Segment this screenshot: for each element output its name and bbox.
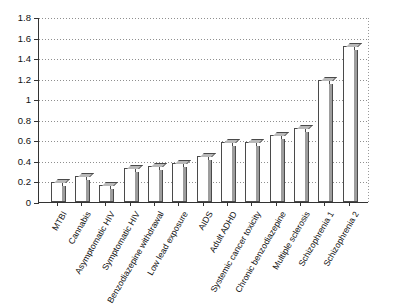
- x-axis-tick: [130, 202, 131, 206]
- y-axis-tick: [34, 203, 39, 204]
- y-axis-tick: [34, 100, 39, 101]
- bar: [172, 163, 184, 202]
- bar-side-face: [232, 146, 236, 202]
- x-axis-tick: [57, 202, 58, 206]
- bar-top-face: [200, 153, 216, 157]
- bar: [124, 168, 136, 202]
- bar-side-face: [354, 50, 358, 202]
- x-axis-category-label: Cannabis: [67, 210, 93, 246]
- y-axis-tick-label: 1.2: [18, 75, 31, 85]
- bar-top-face: [127, 165, 143, 169]
- y-axis-tick: [34, 59, 39, 60]
- bar-top-face: [175, 160, 191, 164]
- y-axis-tick-label: 0.8: [18, 116, 31, 126]
- bar: [148, 166, 160, 202]
- bar: [221, 142, 233, 202]
- x-axis-category-label: AIDS: [197, 210, 214, 232]
- bar-side-face: [110, 189, 114, 202]
- plot-area: 00.20.40.60.811.21.41.61.8: [38, 18, 368, 203]
- bar-side-face: [159, 170, 163, 202]
- y-axis-tick: [34, 80, 39, 81]
- bar-top-face: [151, 163, 167, 167]
- bar-side-face: [208, 160, 212, 202]
- x-axis-tick: [276, 202, 277, 206]
- x-axis-tick: [324, 202, 325, 206]
- bar-side-face: [62, 186, 66, 202]
- bar-top-face: [224, 139, 240, 143]
- x-axis-tick: [349, 202, 350, 206]
- bar: [75, 176, 87, 202]
- y-axis-tick-label: 0.4: [18, 157, 31, 167]
- x-axis-tick: [178, 202, 179, 206]
- bar: [343, 46, 355, 202]
- bar-top-face: [297, 125, 313, 129]
- y-axis-tick: [34, 39, 39, 40]
- bar-top-face: [346, 43, 362, 47]
- bar: [270, 135, 282, 202]
- bar: [245, 142, 257, 202]
- y-axis-tick: [34, 121, 39, 122]
- y-axis-tick-label: 0.6: [18, 137, 31, 147]
- y-axis-tick-label: 1.8: [18, 13, 31, 23]
- x-axis-tick: [227, 202, 228, 206]
- y-axis-tick: [34, 162, 39, 163]
- bar-side-face: [86, 180, 90, 202]
- bar-top-face: [78, 173, 94, 177]
- bar-side-face: [183, 167, 187, 202]
- x-axis-tick: [251, 202, 252, 206]
- bar: [294, 128, 306, 202]
- bar-side-face: [135, 172, 139, 202]
- bar-side-face: [256, 146, 260, 202]
- x-axis-tick: [105, 202, 106, 206]
- bar: [318, 80, 330, 202]
- y-axis-tick: [34, 182, 39, 183]
- gridline: [39, 39, 369, 40]
- bar: [99, 185, 111, 202]
- bar: [51, 182, 63, 202]
- y-axis-tick: [34, 18, 39, 19]
- bar-top-face: [273, 132, 289, 136]
- y-axis-tick-label: 1: [26, 95, 31, 105]
- bar-side-face: [329, 84, 333, 202]
- x-axis-tick: [203, 202, 204, 206]
- x-axis-tick: [81, 202, 82, 206]
- bar-top-face: [102, 182, 118, 186]
- bar: [197, 156, 209, 202]
- x-axis-tick: [154, 202, 155, 206]
- y-axis-tick-label: 1.6: [18, 34, 31, 44]
- gridline: [39, 18, 369, 19]
- y-axis-tick-label: 0: [26, 198, 31, 208]
- bar-side-face: [305, 132, 309, 202]
- y-axis-tick-label: 1.4: [18, 54, 31, 64]
- bar-side-face: [281, 139, 285, 202]
- plot-right-border: [368, 18, 369, 203]
- x-axis-tick: [300, 202, 301, 206]
- y-axis-tick-label: 0.2: [18, 178, 31, 188]
- y-axis-tick: [34, 141, 39, 142]
- bar-chart: 00.20.40.60.811.21.41.61.8 MTBICannabisA…: [0, 0, 397, 307]
- gridline: [39, 59, 369, 60]
- x-axis-category-label: MTBI: [50, 210, 68, 232]
